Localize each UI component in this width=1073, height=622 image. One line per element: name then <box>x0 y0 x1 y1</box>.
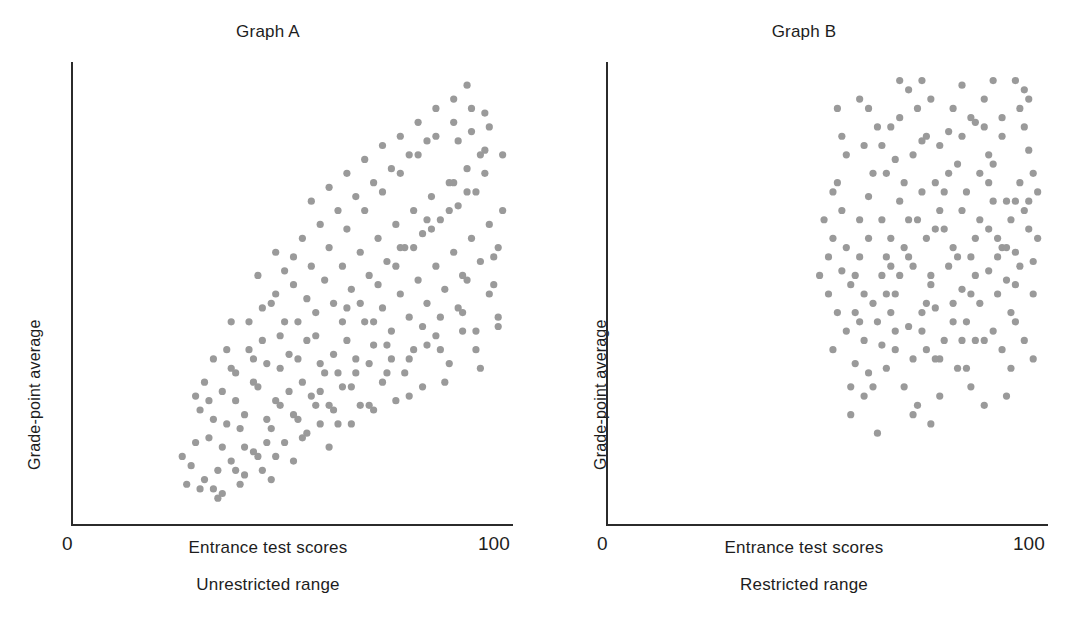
panel-b-x-axis-label: Entrance test scores <box>536 538 1073 558</box>
panel-graph-b: Graph B Grade-point average 0 100 Entran… <box>536 0 1072 622</box>
panel-b-scatter-points <box>606 62 1051 526</box>
panel-graph-a: Graph A Grade-point average 0 100 Entran… <box>0 0 536 622</box>
panel-b-title: Graph B <box>536 22 1073 42</box>
panel-a-scatter-points <box>71 62 516 526</box>
panel-a-y-axis-label: Grade-point average <box>26 319 44 470</box>
scatterplot-figure: Graph A Grade-point average 0 100 Entran… <box>0 0 1073 622</box>
panel-b-sub-label: Restricted range <box>536 575 1073 595</box>
